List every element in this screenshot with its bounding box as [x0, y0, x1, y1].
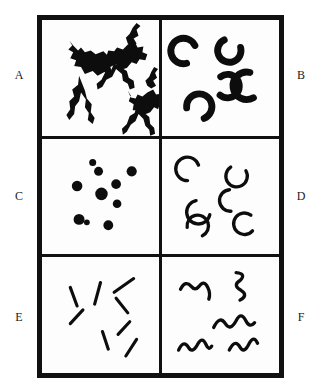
- thick-crescent-group: [166, 34, 253, 120]
- dot-group: [72, 159, 137, 230]
- line-segment-icon: [126, 340, 137, 357]
- line-segment-icon: [95, 283, 101, 305]
- panel-c-canvas: [42, 139, 159, 255]
- line-segment-group: [70, 279, 136, 356]
- panel-e: [42, 257, 159, 373]
- figure-root: A B C D E F: [0, 0, 319, 391]
- panel-label-b: B: [286, 69, 316, 81]
- filled-dot-icon: [94, 166, 103, 175]
- panel-grid-frame: [37, 15, 284, 378]
- filled-dot-icon: [127, 166, 137, 176]
- thin-crescent-icon: [172, 153, 202, 183]
- panel-a: [42, 20, 159, 136]
- filled-dot-icon: [113, 199, 122, 208]
- panel-b-canvas: [162, 20, 279, 136]
- wavy-squiggle-icon: [181, 284, 210, 300]
- line-segment-icon: [70, 288, 77, 307]
- wavy-squiggle-icon: [236, 273, 245, 300]
- panel-label-a: A: [4, 69, 34, 81]
- thin-crescent-icon: [219, 189, 231, 211]
- filled-dot-icon: [84, 219, 90, 225]
- thick-crescent-icon: [166, 34, 200, 68]
- line-segment-icon: [70, 310, 83, 324]
- thick-crescent-icon: [184, 91, 214, 119]
- splatter-blob-group: [66, 23, 159, 136]
- panel-d-canvas: [162, 139, 279, 255]
- filled-dot-icon: [72, 180, 83, 191]
- panel-f-canvas: [162, 257, 279, 373]
- thin-crescent-icon: [233, 212, 253, 235]
- wavy-squiggle-icon: [214, 316, 255, 328]
- line-segment-icon: [116, 298, 128, 313]
- line-segment-icon: [114, 279, 133, 293]
- panel-e-canvas: [42, 257, 159, 373]
- panel-a-canvas: [42, 20, 159, 136]
- wavy-squiggle-icon: [179, 340, 212, 350]
- panel-d: [162, 139, 279, 255]
- filled-dot-icon: [111, 179, 121, 189]
- line-segment-icon: [118, 322, 130, 335]
- panel-b: [162, 20, 279, 136]
- panel-label-d: D: [286, 190, 316, 202]
- panel-f: [162, 257, 279, 373]
- panel-label-f: F: [286, 311, 316, 323]
- thin-crescent-icon: [224, 166, 248, 188]
- filled-dot-icon: [74, 214, 85, 225]
- wavy-squiggle-icon: [229, 339, 257, 350]
- filled-dot-icon: [95, 187, 107, 200]
- thin-crescent-group: [172, 153, 252, 236]
- filled-dot-icon: [103, 220, 113, 230]
- panel-label-e: E: [4, 311, 34, 323]
- thick-crescent-icon: [215, 39, 242, 65]
- panel-c: [42, 139, 159, 255]
- panel-label-c: C: [4, 190, 34, 202]
- filled-dot-icon: [89, 159, 96, 166]
- squiggle-group: [179, 273, 258, 350]
- line-segment-icon: [102, 332, 108, 350]
